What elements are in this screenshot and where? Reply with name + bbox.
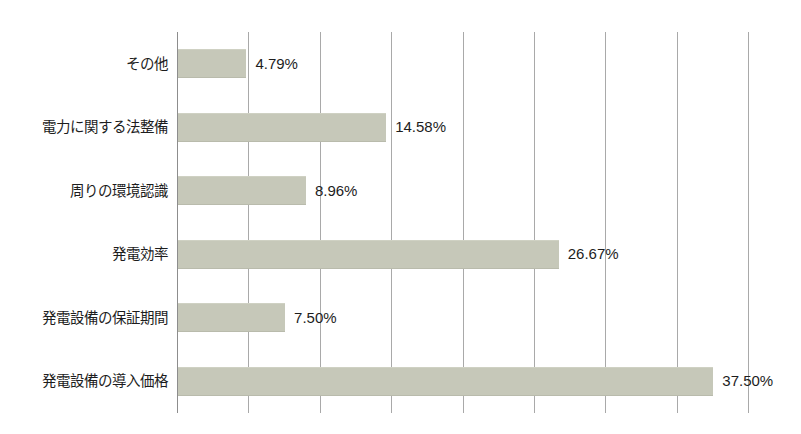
- value-label: 26.67%: [568, 245, 619, 263]
- value-label: 4.79%: [255, 55, 298, 73]
- clipped-header-text: [300, 0, 780, 10]
- bar: [178, 113, 386, 142]
- gridline: [463, 32, 464, 413]
- bar: [178, 240, 559, 269]
- gridline: [248, 32, 249, 413]
- bar-chart: その他電力に関する法整備周りの環境認識発電効率発電設備の保証期間発電設備の導入価…: [0, 0, 801, 434]
- category-label: 電力に関する法整備: [0, 118, 168, 136]
- plot-area: [177, 32, 748, 413]
- value-label: 7.50%: [294, 309, 337, 327]
- category-label: 発電効率: [0, 245, 168, 263]
- category-label: その他: [0, 55, 168, 73]
- bar: [178, 303, 285, 332]
- value-label: 14.58%: [395, 118, 446, 136]
- gridline: [748, 32, 749, 413]
- value-label: 8.96%: [315, 182, 358, 200]
- gridline: [391, 32, 392, 413]
- clipped-footer-text: [110, 420, 530, 432]
- value-label: 37.50%: [722, 372, 773, 390]
- gridline: [677, 32, 678, 413]
- bar: [178, 367, 713, 396]
- gridline: [534, 32, 535, 413]
- bar: [178, 176, 306, 205]
- gridline: [320, 32, 321, 413]
- category-label: 発電設備の保証期間: [0, 309, 168, 327]
- category-label: 周りの環境認識: [0, 182, 168, 200]
- category-label: 発電設備の導入価格: [0, 372, 168, 390]
- value-axis-line: [177, 32, 178, 413]
- gridline: [605, 32, 606, 413]
- bar: [178, 49, 246, 78]
